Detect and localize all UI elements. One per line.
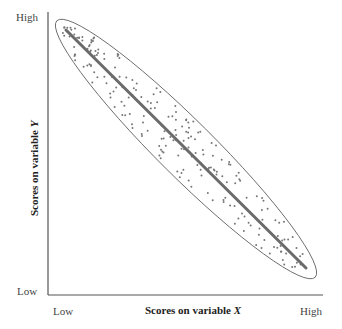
data-point: [273, 246, 275, 248]
data-point: [223, 201, 225, 203]
data-point: [282, 259, 284, 261]
data-point: [287, 239, 289, 241]
data-point: [74, 59, 76, 61]
data-point: [187, 132, 189, 134]
data-point: [96, 54, 98, 56]
data-point: [243, 230, 245, 232]
data-point: [181, 148, 183, 150]
data-point: [244, 216, 246, 218]
data-point: [97, 52, 99, 54]
data-point: [164, 130, 166, 132]
data-point: [185, 131, 187, 133]
data-point: [165, 145, 167, 147]
data-point: [132, 127, 134, 129]
data-point: [261, 209, 263, 211]
data-point: [258, 234, 260, 236]
data-point: [143, 115, 145, 117]
data-point: [168, 116, 170, 118]
data-point: [115, 86, 117, 88]
data-point: [274, 219, 276, 221]
data-point: [185, 119, 187, 121]
data-point: [110, 97, 112, 99]
data-point: [261, 219, 263, 221]
data-point: [177, 155, 179, 157]
data-point: [175, 129, 177, 131]
data-point: [175, 111, 177, 113]
data-point: [81, 36, 83, 38]
data-point: [90, 39, 92, 41]
data-point: [215, 144, 217, 146]
data-point: [213, 168, 215, 170]
data-point: [196, 164, 198, 166]
data-point: [255, 244, 257, 246]
data-point: [246, 197, 248, 199]
data-point: [228, 161, 230, 163]
data-point: [74, 54, 76, 56]
data-point: [156, 101, 158, 103]
data-point: [103, 76, 105, 78]
data-point: [81, 40, 83, 42]
data-point: [250, 225, 252, 227]
data-point: [78, 37, 80, 39]
data-point: [103, 53, 105, 55]
data-point: [202, 153, 204, 155]
y-axis-title-text: Scores on variable: [28, 127, 40, 216]
data-point: [188, 137, 190, 139]
data-point: [103, 58, 105, 60]
y-tick-low: Low: [17, 285, 37, 297]
data-point: [66, 27, 68, 29]
data-point: [223, 199, 225, 201]
data-point: [88, 45, 90, 47]
data-point: [121, 101, 123, 103]
data-point: [229, 205, 231, 207]
data-point: [261, 197, 263, 199]
data-point: [179, 176, 181, 178]
data-point: [131, 123, 133, 125]
data-point: [153, 93, 155, 95]
data-point: [267, 208, 269, 210]
data-point: [133, 87, 135, 89]
data-point: [147, 130, 149, 132]
data-point: [291, 266, 293, 268]
data-point: [237, 218, 239, 220]
data-point: [238, 172, 240, 174]
data-point: [156, 87, 158, 89]
data-point: [114, 66, 116, 68]
data-point: [259, 228, 261, 230]
data-point: [73, 46, 75, 48]
data-point: [114, 106, 116, 108]
data-point: [296, 247, 298, 249]
data-point: [263, 200, 265, 202]
data-point: [188, 127, 190, 129]
data-point: [96, 76, 98, 78]
x-tick-low: Low: [53, 305, 73, 317]
data-point: [175, 119, 177, 121]
data-point: [212, 155, 214, 157]
data-point: [161, 138, 163, 140]
data-point: [70, 27, 72, 29]
data-point: [199, 131, 201, 133]
data-point: [140, 96, 142, 98]
data-point: [181, 125, 183, 127]
data-point: [172, 139, 174, 141]
data-point: [285, 252, 287, 254]
data-point: [117, 54, 119, 56]
data-point: [136, 83, 138, 85]
data-point: [299, 255, 301, 257]
data-point: [261, 247, 263, 249]
data-point: [93, 71, 95, 73]
data-point: [141, 135, 143, 137]
data-point: [174, 105, 176, 107]
data-point: [97, 49, 99, 51]
data-point: [226, 181, 228, 183]
data-point: [142, 122, 144, 124]
x-tick-high: High: [300, 305, 322, 317]
data-point: [73, 34, 75, 36]
data-point: [210, 167, 212, 169]
data-point: [294, 266, 296, 268]
y-tick-high: High: [16, 11, 38, 23]
data-point: [221, 159, 223, 161]
data-point: [216, 171, 218, 173]
data-point: [280, 251, 282, 253]
data-point: [256, 195, 258, 197]
